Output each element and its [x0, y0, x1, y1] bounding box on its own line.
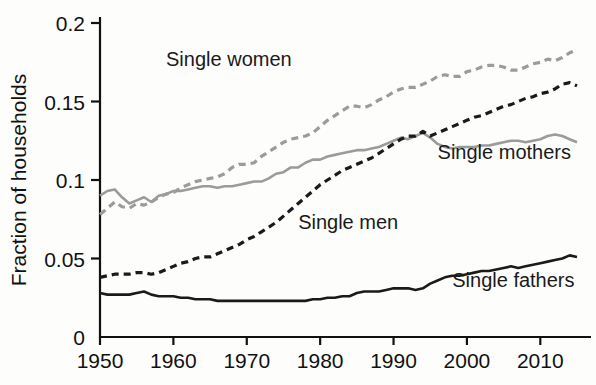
series-label-single-mothers: Single mothers	[438, 141, 571, 163]
x-tick-label: 1980	[297, 349, 344, 372]
y-tick-label: 0.1	[56, 169, 85, 192]
series-label-single-women: Single women	[166, 48, 292, 70]
x-tick-label: 1970	[223, 349, 270, 372]
x-tick-label: 1950	[77, 349, 124, 372]
chart-figure: 00.050.10.150.21950196019701980199020002…	[0, 0, 596, 385]
x-tick-label: 2000	[444, 349, 491, 372]
y-tick-label: 0.15	[44, 91, 85, 114]
x-tick-label: 2010	[517, 349, 564, 372]
series-line-single-men	[100, 83, 577, 278]
series-label-single-fathers: Single fathers	[452, 269, 574, 291]
y-tick-label: 0.2	[56, 12, 85, 35]
y-tick-label: 0.05	[44, 248, 85, 271]
series-label-single-men: Single men	[298, 211, 398, 233]
series-line-single-women	[100, 50, 577, 215]
y-axis-title: Fraction of households	[7, 74, 30, 286]
plot-area: 00.050.10.150.21950196019701980199020002…	[7, 12, 591, 372]
x-tick-label: 1960	[150, 349, 197, 372]
y-tick-label: 0	[73, 326, 85, 349]
x-tick-label: 1990	[370, 349, 417, 372]
chart-canvas: 00.050.10.150.21950196019701980199020002…	[0, 0, 596, 385]
